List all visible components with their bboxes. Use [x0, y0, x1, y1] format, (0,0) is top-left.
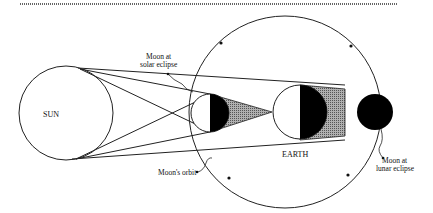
moon-orbit-label: Moon's orbit — [158, 168, 197, 177]
leader-solar-dot — [167, 73, 170, 76]
moon-lunar-eclipse — [357, 94, 393, 130]
leader-lunar — [379, 129, 383, 158]
moon-solar-label-2: solar eclipse — [140, 60, 178, 69]
earth-label: EARTH — [282, 150, 308, 159]
orbit-arrow-4 — [227, 176, 230, 179]
leader-orbit — [198, 158, 212, 172]
moon-lunar-label-2: lunar eclipse — [376, 164, 415, 173]
orbit-arrow-3 — [346, 173, 349, 176]
sun — [19, 66, 113, 160]
sun-label: SUN — [43, 110, 59, 119]
orbit-arrow-2 — [349, 44, 352, 47]
orbit-arrow-1 — [219, 41, 222, 44]
leader-solar — [168, 74, 193, 92]
eclipse-diagram: SUN EARTH Moon at solar eclipse Moon at … — [0, 0, 433, 213]
